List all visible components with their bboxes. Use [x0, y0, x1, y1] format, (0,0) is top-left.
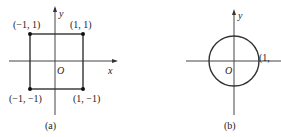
caption-a: (a)	[45, 120, 56, 132]
label-bottom-left: (−1, −1)	[9, 93, 42, 105]
label-top-left: (−1, 1)	[13, 19, 40, 31]
label-top-right: (1, 1)	[70, 19, 92, 31]
origin-label: O	[225, 65, 232, 76]
point-label: (1,	[259, 52, 270, 64]
y-axis-arrow-icon	[53, 6, 57, 12]
y-axis-label: y	[237, 10, 243, 21]
x-axis-arrow-icon	[112, 59, 118, 63]
y-axis-arrow-icon	[232, 9, 236, 15]
point-top-left	[28, 32, 32, 36]
figure-b: y O (1, (b)	[186, 9, 281, 132]
y-axis-label: y	[58, 8, 64, 19]
label-bottom-right: (1, −1)	[73, 93, 100, 105]
x-axis-label: x	[107, 65, 113, 76]
caption-b: (b)	[224, 120, 236, 132]
point-top-right	[81, 32, 85, 36]
origin-label: O	[57, 65, 64, 76]
figure-a: (−1, 1) (1, 1) (−1, −1) (1, −1) x y O (a…	[9, 6, 118, 132]
point-bottom-left	[28, 87, 32, 91]
point-bottom-right	[81, 87, 85, 91]
diagram-canvas: (−1, 1) (1, 1) (−1, −1) (1, −1) x y O (a…	[0, 0, 281, 137]
